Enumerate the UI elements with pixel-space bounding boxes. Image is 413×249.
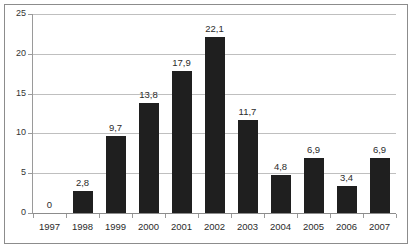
- y-axis-tick-label: 10: [0, 128, 26, 137]
- x-axis-tick-mark: [165, 214, 166, 218]
- bar-value-label-2003: 11,7: [228, 107, 268, 117]
- x-axis-tick-mark: [99, 214, 100, 218]
- bar-1999[interactable]: [106, 136, 126, 213]
- y-axis-tick-labels: 0510152025: [0, 0, 26, 249]
- y-axis-tick-label: 25: [0, 9, 26, 18]
- bar-value-label-2006: 3,4: [327, 173, 367, 183]
- bar-2005[interactable]: [304, 158, 324, 213]
- x-axis-tick-mark: [231, 214, 232, 218]
- x-axis-tick-mark: [198, 214, 199, 218]
- bar-chart: 0510152025 019972,819989,7199913,8200017…: [0, 0, 413, 249]
- y-axis-tick-mark: [28, 94, 33, 95]
- bar-value-label-1999: 9,7: [96, 123, 136, 133]
- gridline-y-25: [33, 14, 396, 15]
- x-axis-tick-mark: [66, 214, 67, 218]
- x-axis-tick-mark: [132, 214, 133, 218]
- bar-value-label-1998: 2,8: [63, 178, 103, 188]
- y-axis-tick-label: 5: [0, 168, 26, 177]
- x-axis-tick-mark: [297, 214, 298, 218]
- bar-2003[interactable]: [238, 120, 258, 213]
- x-axis-line: [33, 213, 396, 214]
- bar-2006[interactable]: [337, 186, 357, 213]
- x-axis-tick-mark: [363, 214, 364, 218]
- x-axis-tick-mark: [330, 214, 331, 218]
- bar-2000[interactable]: [139, 103, 159, 213]
- bar-2001[interactable]: [172, 71, 192, 213]
- x-axis-category-label-2007: 2007: [360, 221, 400, 232]
- bar-2002[interactable]: [205, 37, 225, 213]
- y-axis-tick-label: 0: [0, 208, 26, 217]
- bar-value-label-2005: 6,9: [294, 145, 334, 155]
- bar-value-label-2001: 17,9: [162, 58, 202, 68]
- x-axis-tick-mark: [396, 214, 397, 218]
- bar-value-label-2007: 6,9: [360, 145, 400, 155]
- bar-value-label-1997: 0: [30, 200, 70, 210]
- y-axis-tick-mark: [28, 173, 33, 174]
- y-axis-tick-label: 20: [0, 49, 26, 58]
- bar-value-label-2002: 22,1: [195, 24, 235, 34]
- bar-value-label-2004: 4,8: [261, 162, 301, 172]
- x-axis-tick-mark: [33, 214, 34, 218]
- y-axis-tick-mark: [28, 54, 33, 55]
- bar-2004[interactable]: [271, 175, 291, 213]
- bar-1998[interactable]: [73, 191, 93, 213]
- y-axis-tick-label: 15: [0, 89, 26, 98]
- x-axis-tick-mark: [264, 214, 265, 218]
- y-axis-tick-mark: [28, 133, 33, 134]
- bar-value-label-2000: 13,8: [129, 90, 169, 100]
- bar-2007[interactable]: [370, 158, 390, 213]
- y-axis-tick-mark: [28, 14, 33, 15]
